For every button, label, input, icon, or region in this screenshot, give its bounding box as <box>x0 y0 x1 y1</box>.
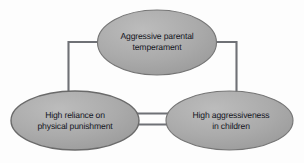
diagram-graphics <box>0 0 304 163</box>
node-aggressive-parental-temperament[interactable] <box>98 10 217 75</box>
diagram-canvas: Aggressive parental temperament High rel… <box>0 0 304 163</box>
node-high-aggressiveness-in-children[interactable] <box>166 91 293 150</box>
connector-top-to-right <box>214 42 237 99</box>
node-high-reliance-on-physical-punishment[interactable] <box>11 91 139 150</box>
